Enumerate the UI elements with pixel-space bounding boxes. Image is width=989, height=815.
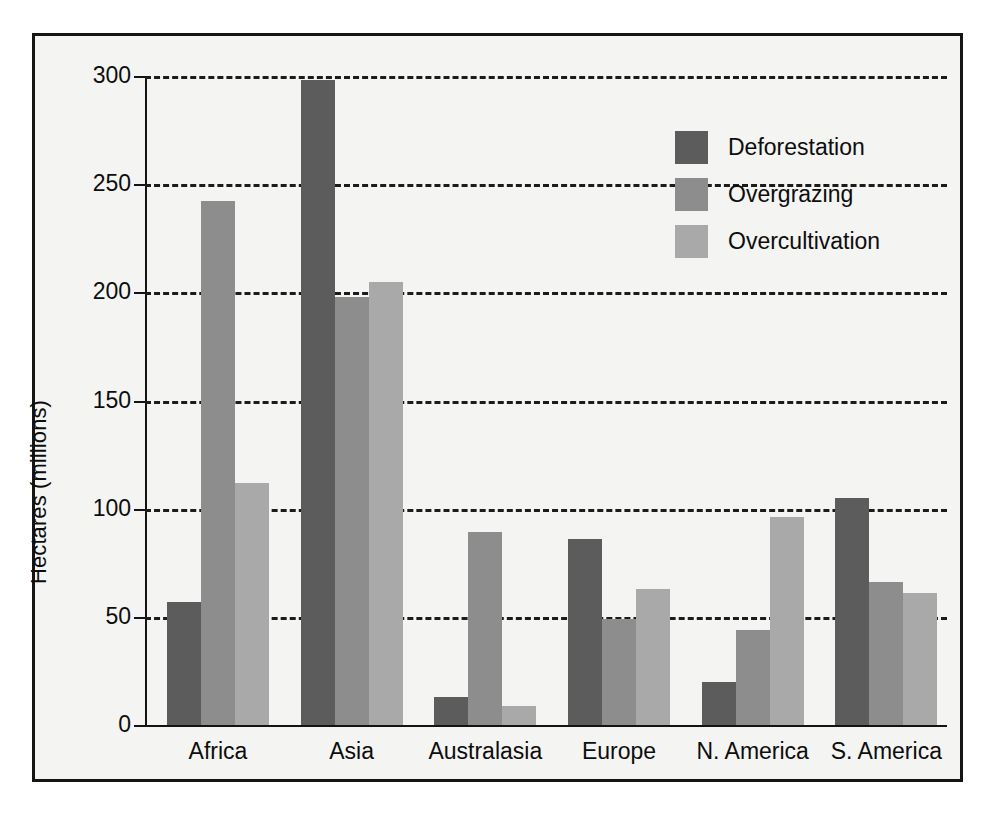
y-axis-tick — [134, 76, 145, 78]
bar — [835, 498, 869, 725]
bar — [702, 682, 736, 725]
bar — [903, 593, 937, 725]
bar — [502, 706, 536, 725]
y-axis-title: Hectares (millions) — [26, 362, 52, 622]
bar — [770, 517, 804, 725]
legend-label: Overgrazing — [728, 181, 853, 208]
legend-label: Overcultivation — [728, 228, 880, 255]
bar — [736, 630, 770, 725]
y-axis-tick — [134, 292, 145, 294]
bar — [434, 697, 468, 725]
y-axis-tick — [134, 725, 145, 727]
y-axis-tick — [134, 401, 145, 403]
gridline — [145, 292, 947, 295]
bar — [201, 201, 235, 725]
bar — [602, 619, 636, 725]
legend-swatch — [675, 178, 708, 211]
bar — [568, 539, 602, 725]
y-axis-tick — [134, 509, 145, 511]
bar — [301, 80, 335, 725]
x-axis-tick-label: Europe — [582, 738, 656, 765]
gridline — [145, 401, 947, 404]
chart-figure: Hectares (millions) 050100150200250300 A… — [32, 33, 963, 782]
legend-swatch — [675, 225, 708, 258]
bar — [369, 282, 403, 725]
x-axis-tick-label: N. America — [696, 738, 808, 765]
legend-label: Deforestation — [728, 134, 865, 161]
x-axis-tick-label: S. America — [831, 738, 942, 765]
y-axis-tick-label: 200 — [61, 278, 131, 305]
bar — [869, 582, 903, 725]
bar — [468, 532, 502, 725]
gridline — [145, 76, 947, 79]
legend-item[interactable]: Overcultivation — [675, 218, 880, 265]
y-axis-tick-label: 0 — [61, 711, 131, 738]
y-axis-tick-label: 150 — [61, 387, 131, 414]
y-axis-tick-label: 50 — [61, 603, 131, 630]
legend-swatch — [675, 131, 708, 164]
x-axis-line — [145, 725, 947, 727]
x-axis-tick-label: Africa — [189, 738, 248, 765]
chart-legend: DeforestationOvergrazingOvercultivation — [675, 124, 880, 265]
bar — [167, 602, 201, 725]
y-axis-tick — [134, 617, 145, 619]
bar — [636, 589, 670, 725]
legend-item[interactable]: Overgrazing — [675, 171, 880, 218]
y-axis-tick-label: 300 — [61, 62, 131, 89]
bar — [235, 483, 269, 725]
x-axis-tick-label: Australasia — [428, 738, 542, 765]
y-axis-tick-labels: 050100150200250300 — [59, 76, 131, 725]
y-axis-tick-label: 250 — [61, 170, 131, 197]
legend-item[interactable]: Deforestation — [675, 124, 880, 171]
bar — [335, 297, 369, 725]
y-axis-tick-label: 100 — [61, 495, 131, 522]
y-axis-tick — [134, 184, 145, 186]
x-axis-tick-label: Asia — [329, 738, 374, 765]
